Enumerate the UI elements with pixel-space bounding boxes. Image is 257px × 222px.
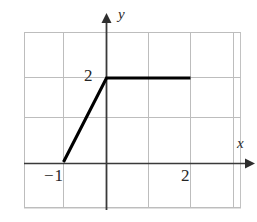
x-tick-label-minus-1: −1 [44,167,64,184]
y-axis [102,13,112,210]
x-tick-label-2: 2 [181,167,190,184]
y-axis-arrowhead [102,13,112,23]
x-axis-arrowhead [245,159,255,169]
y-axis-label: y [118,7,125,22]
y-tick-label-2: 2 [84,67,93,84]
graph-figure: y x 2 −1 2 [0,0,257,222]
function-curve [64,78,191,162]
coordinate-plane [0,0,257,222]
x-axis-label: x [237,136,244,151]
